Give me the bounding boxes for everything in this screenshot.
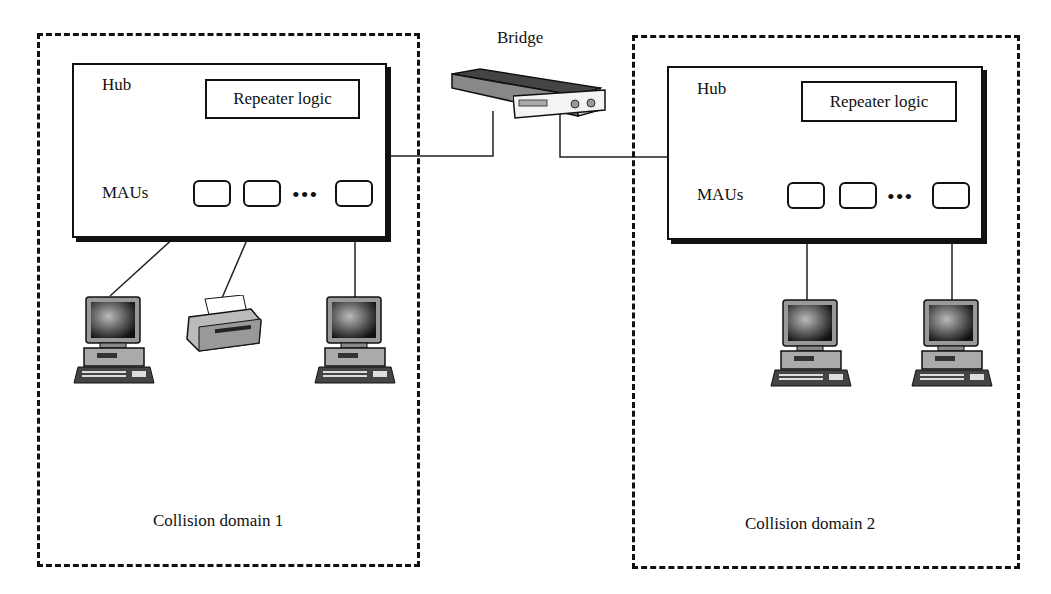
mau-2-1 <box>787 182 825 209</box>
repeater-logic-2: Repeater logic <box>801 81 957 122</box>
mau-1-1 <box>193 180 231 207</box>
bridge-front-panel <box>513 88 607 120</box>
printer-icon <box>185 295 263 355</box>
computer-icon <box>72 295 156 387</box>
hub-1-label: Hub <box>102 75 131 95</box>
mau-ellipsis-1: ••• <box>292 190 318 200</box>
maus-1-label: MAUs <box>102 183 148 203</box>
computer-icon <box>769 298 853 390</box>
mau-1-2 <box>243 180 281 207</box>
mau-ellipsis-2: ••• <box>887 192 913 202</box>
bridge-label: Bridge <box>497 28 543 48</box>
computer-icon <box>313 295 397 387</box>
maus-2-label: MAUs <box>697 185 743 205</box>
mau-1-3 <box>335 180 373 207</box>
mau-2-3 <box>932 182 970 209</box>
computer-icon <box>910 298 994 390</box>
collision-domain-1-label: Collision domain 1 <box>153 511 283 531</box>
collision-domain-2-label: Collision domain 2 <box>745 514 875 534</box>
repeater-logic-1: Repeater logic <box>205 79 360 119</box>
mau-2-2 <box>839 182 877 209</box>
hub-2-label: Hub <box>697 79 726 99</box>
